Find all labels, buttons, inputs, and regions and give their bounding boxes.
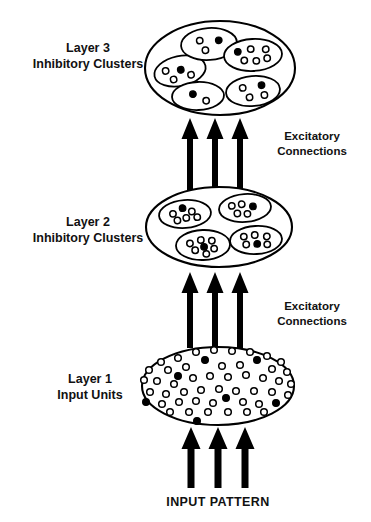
layer1-unit-excitatory — [288, 381, 295, 388]
layer2-unit-excitatory — [209, 237, 216, 244]
layer3-unit-excitatory — [246, 94, 253, 101]
layer2-unit-excitatory — [194, 214, 201, 221]
layer1-to-layer2-arrow-group — [182, 272, 249, 348]
layer1-unit-excitatory — [210, 400, 217, 407]
excitatory-lower-label-line2: Connections — [277, 315, 347, 327]
layer3-unit-excitatory — [196, 37, 203, 44]
layer3-unit-excitatory — [262, 46, 269, 53]
excitatory-arrow-layer2-to-layer3 — [232, 118, 249, 190]
layer1-unit-excitatory — [205, 409, 212, 416]
layer3-unit-excitatory — [202, 47, 209, 54]
layer3-unit-excitatory — [203, 97, 210, 104]
layer1-unit-excitatory — [193, 398, 200, 405]
excitatory-arrow-layer2-to-layer3 — [182, 118, 199, 190]
layer1-unit-excitatory — [229, 348, 236, 355]
layer2-unit-excitatory — [228, 202, 235, 209]
layer1-group — [141, 347, 295, 425]
layer1-unit-inhibitory — [194, 418, 201, 425]
layer1-unit-excitatory — [171, 381, 178, 388]
layer2-unit-excitatory — [183, 215, 190, 222]
layer1-unit-excitatory — [276, 378, 283, 385]
layer1-unit-excitatory — [211, 347, 218, 354]
layer1-unit-excitatory — [154, 378, 161, 385]
excitatory-lower-label-line1: Excitatory — [284, 300, 340, 312]
excitatory-arrow-layer2-to-layer3 — [207, 118, 224, 190]
layer3-unit-excitatory — [247, 46, 254, 53]
layer2-unit-excitatory — [240, 233, 247, 240]
layer2-unit-excitatory — [234, 210, 241, 217]
layer2-unit-excitatory — [238, 201, 245, 208]
layer1-unit-excitatory — [233, 388, 240, 395]
layer1-unit-inhibitory — [202, 357, 209, 364]
layer1-unit-excitatory — [225, 374, 232, 381]
layer2-label-line2: Inhibitory Clusters — [33, 231, 143, 245]
layer2-unit-inhibitory — [254, 240, 261, 247]
layer3-unit-excitatory — [261, 92, 268, 99]
layer1-unit-excitatory — [256, 401, 263, 408]
layer3-unit-excitatory — [187, 71, 195, 79]
network-diagram: Layer 3 Inhibitory Clusters Layer 2 Inhi… — [0, 0, 371, 522]
layer2-unit-inhibitory — [249, 203, 256, 210]
layer1-unit-inhibitory — [175, 373, 182, 380]
layer2-unit-excitatory — [263, 233, 270, 240]
layer2-unit-excitatory — [203, 251, 210, 258]
layer2-group — [146, 187, 292, 267]
input-to-layer1-arrow-group — [182, 427, 255, 488]
layer1-unit-excitatory — [158, 359, 165, 366]
layer1-unit-excitatory — [159, 401, 166, 408]
layer1-label-line1: Layer 1 — [68, 372, 112, 386]
layer1-unit-excitatory — [181, 389, 188, 396]
layer2-unit-excitatory — [188, 208, 195, 215]
layer3-unit-excitatory — [162, 67, 170, 75]
layer1-unit-excitatory — [186, 409, 193, 416]
layer1-unit-excitatory — [163, 391, 170, 398]
network-diagram-canvas: Layer 3 Inhibitory Clusters Layer 2 Inhi… — [0, 0, 371, 522]
input-arrow — [182, 427, 201, 488]
layer1-unit-excitatory — [264, 353, 271, 360]
excitatory-arrow-layer1-to-layer2 — [232, 272, 249, 348]
excitatory-upper-label-line2: Connections — [277, 145, 347, 157]
layer1-unit-excitatory — [141, 377, 148, 384]
layer1-unit-excitatory — [225, 409, 232, 416]
layer3-unit-inhibitory — [190, 91, 197, 98]
layer1-unit-excitatory — [247, 349, 254, 356]
layer1-unit-excitatory — [207, 373, 214, 380]
layer2-unit-excitatory — [251, 232, 258, 239]
layer1-unit-excitatory — [269, 366, 276, 373]
layer1-unit-excitatory — [175, 355, 182, 362]
layer1-unit-excitatory — [183, 364, 190, 371]
layer1-unit-excitatory — [278, 359, 285, 366]
layer1-unit-excitatory — [176, 399, 183, 406]
layer3-label-line1: Layer 3 — [66, 41, 110, 55]
layer1-unit-excitatory — [198, 387, 205, 394]
layer2-unit-excitatory — [187, 240, 194, 247]
layer1-unit-excitatory — [219, 363, 226, 370]
layer1-unit-inhibitory — [143, 399, 150, 406]
layer1-unit-excitatory — [285, 392, 292, 399]
layer3-unit-inhibitory — [258, 82, 265, 89]
layer1-unit-excitatory — [146, 367, 153, 374]
layer1-unit-excitatory — [190, 375, 197, 382]
layer1-unit-inhibitory — [254, 357, 261, 364]
layer1-unit-inhibitory — [223, 395, 230, 402]
layer2-unit-excitatory — [198, 237, 205, 244]
layer3-unit-excitatory — [241, 57, 248, 64]
layer1-unit-excitatory — [167, 409, 174, 416]
layer1-unit-excitatory — [284, 369, 291, 376]
input-pattern-label: INPUT PATTERN — [166, 495, 269, 509]
layer2-unit-excitatory — [264, 241, 271, 248]
layer1-label-line2: Input Units — [57, 388, 122, 402]
layer2-unit-excitatory — [170, 210, 177, 217]
layer1-unit-excitatory — [165, 367, 172, 374]
layer1-unit-excitatory — [216, 386, 223, 393]
excitatory-arrow-layer1-to-layer2 — [207, 272, 224, 348]
layer3-unit-inhibitory — [177, 66, 185, 74]
layer1-unit-excitatory — [147, 389, 154, 396]
layer1-unit-excitatory — [243, 372, 250, 379]
layer3-label-line2: Inhibitory Clusters — [33, 57, 143, 71]
layer3-group — [145, 21, 295, 115]
input-arrow — [236, 427, 255, 488]
layer2-label-line1: Layer 2 — [66, 215, 110, 229]
layer2-unit-excitatory — [244, 210, 251, 217]
layer2-unit-excitatory — [211, 245, 218, 252]
